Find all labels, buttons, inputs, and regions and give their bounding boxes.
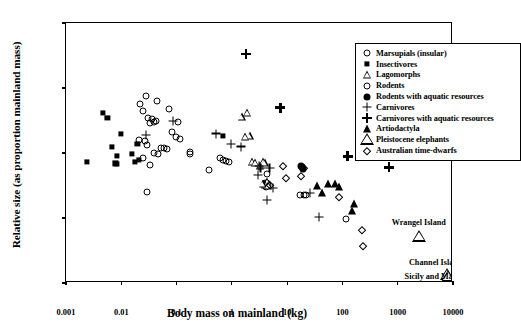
data-point (306, 189, 315, 198)
data-point (150, 150, 157, 157)
legend-item-label: Australian time-dwarfs (376, 146, 457, 155)
data-point (241, 49, 251, 59)
data-point (350, 199, 358, 207)
data-point (275, 103, 285, 113)
legend-item-0[interactable]: Marsupials (insular) (359, 48, 516, 59)
data-point (168, 117, 177, 126)
data-point (147, 161, 154, 168)
open-circle-icon (359, 80, 376, 91)
x-tick-mark (287, 281, 288, 285)
open-triangle-icon (359, 70, 376, 81)
x-axis-title: Body mass on mainland (kg) (0, 307, 474, 319)
legend-item-1[interactable]: Insectivores (359, 59, 516, 70)
plot-area: 0.000.501.001.502.00 0.0010.010.11101001… (65, 22, 452, 282)
data-point (358, 226, 366, 234)
data-point (335, 193, 343, 201)
x-tick-mark (452, 281, 453, 285)
data-point (263, 195, 272, 204)
legend-item-5[interactable]: Carnivores (359, 102, 516, 113)
data-point (139, 108, 146, 115)
data-point (143, 92, 150, 99)
x-tick-mark (342, 281, 343, 285)
data-point (342, 216, 349, 223)
data-point (129, 152, 134, 157)
legend-item-3[interactable]: Rodents (359, 80, 516, 91)
data-point (109, 144, 114, 149)
data-point (114, 161, 119, 166)
data-point (144, 189, 151, 196)
data-point (279, 162, 287, 170)
legend-item-label: Rodents (376, 81, 404, 90)
data-point (343, 151, 353, 161)
legend-item-label: Lagomorphs (376, 70, 420, 79)
data-point (205, 166, 212, 173)
data-point (236, 142, 245, 151)
x-tick-mark (397, 281, 398, 285)
data-point (150, 118, 157, 125)
plot-annotation: Channel Islands (409, 257, 451, 266)
legend-item-label: Rodents with aquatic resources (376, 92, 484, 101)
open-diamond-icon (359, 145, 376, 156)
legend-item-9[interactable]: Australian time-dwarfs (359, 145, 516, 156)
data-point (105, 115, 110, 120)
data-point (221, 134, 226, 139)
chart-legend[interactable]: Marsupials (insular)InsectivoresLagomorp… (355, 43, 521, 161)
filled-circle-icon (359, 91, 376, 102)
data-point (135, 141, 140, 146)
legend-item-label: Marsupials (insular) (376, 49, 447, 58)
data-point (243, 108, 251, 116)
data-point (226, 139, 235, 148)
data-point (412, 230, 426, 242)
data-point (164, 146, 171, 153)
data-point (254, 171, 263, 180)
data-point (225, 159, 232, 166)
legend-item-label: Insectivores (376, 60, 417, 69)
data-point (144, 142, 151, 149)
legend-item-7[interactable]: Artiodactyla (359, 124, 516, 135)
data-point (282, 174, 290, 182)
data-point (136, 157, 141, 162)
data-point (114, 153, 119, 158)
big-open-triangle-icon (359, 134, 376, 145)
x-tick-mark (121, 281, 122, 285)
data-point (118, 131, 123, 136)
data-point (359, 242, 367, 250)
data-point (166, 105, 173, 112)
legend-item-2[interactable]: Lagomorphs (359, 70, 516, 81)
x-tick-mark (176, 281, 177, 285)
y-axis-title: Relative size (as proportion mainland ma… (10, 15, 22, 275)
data-point (154, 98, 161, 105)
filled-square-icon (359, 59, 376, 70)
data-point (348, 206, 356, 214)
x-tick-mark (65, 281, 66, 285)
legend-item-label: Carnivores (376, 103, 414, 112)
legend-item-label: Artiodactyla (376, 124, 420, 133)
data-point (318, 188, 326, 196)
bold-plus-icon (359, 113, 376, 124)
legend-item-4[interactable]: Rodents with aquatic resources (359, 91, 516, 102)
x-tick-mark (231, 281, 232, 285)
plot-annotation: Sicily and Malta (405, 271, 451, 280)
legend-item-8[interactable]: Pleistocene elephants (359, 134, 516, 145)
data-point (212, 129, 221, 138)
legend-item-6[interactable]: Carnivores with aquatic resources (359, 113, 516, 124)
data-point (384, 162, 394, 172)
data-point (176, 135, 183, 142)
data-point (265, 163, 274, 172)
data-point (241, 133, 249, 141)
legend-item-label: Pleistocene elephants (376, 135, 449, 144)
data-point (297, 172, 305, 180)
data-point (142, 130, 151, 139)
open-circle-icon (359, 48, 376, 59)
data-point (217, 155, 224, 162)
data-point (137, 100, 144, 107)
thin-plus-icon (359, 102, 376, 113)
data-point (314, 212, 323, 221)
data-point (84, 160, 89, 165)
legend-item-label: Carnivores with aquatic resources (376, 114, 494, 123)
data-point (335, 183, 343, 191)
data-point (187, 151, 194, 158)
plot-annotation: Wrangel Island (392, 217, 446, 226)
